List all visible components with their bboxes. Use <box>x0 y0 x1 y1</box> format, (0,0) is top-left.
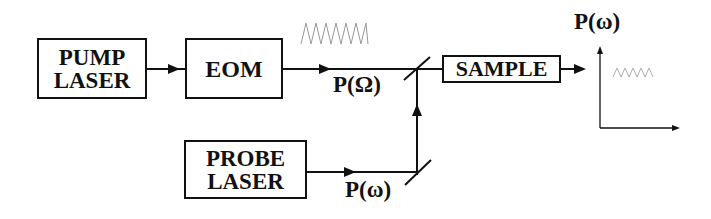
pump-to-eom-arrow <box>146 64 185 74</box>
output-axis-label: P(ω) <box>574 9 620 35</box>
probe-vertical-arrow <box>412 69 422 175</box>
probe-to-mirror-arrow <box>306 167 417 177</box>
output-axes <box>597 46 680 131</box>
pump-signal-label: P(Ω) <box>333 72 381 98</box>
eom-label: EOM <box>205 57 262 81</box>
probe-laser-line1: PROBE <box>206 147 285 170</box>
pump-laser-line1: PUMP <box>59 46 125 69</box>
sample-label: SAMPLE <box>456 58 548 80</box>
pump-laser-block: PUMP LASER <box>37 38 147 99</box>
output-wave-icon <box>613 68 653 77</box>
probe-laser-line2: LASER <box>207 170 284 193</box>
probe-signal-label: P(ω) <box>345 177 391 203</box>
sample-block: SAMPLE <box>442 55 561 83</box>
pump-laser-line2: LASER <box>54 69 131 92</box>
modulation-wave-icon <box>301 23 368 44</box>
sample-output-arrow <box>560 64 586 74</box>
eom-block: EOM <box>185 38 283 99</box>
probe-laser-block: PROBE LASER <box>184 140 307 199</box>
